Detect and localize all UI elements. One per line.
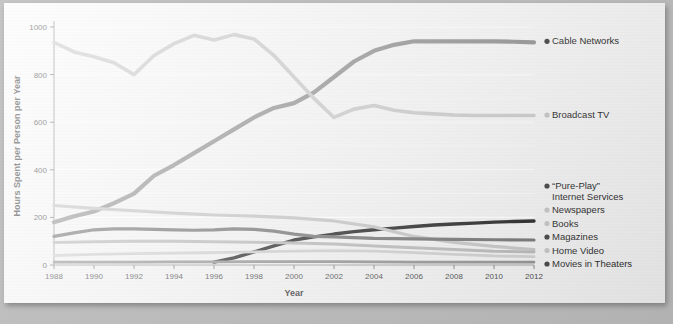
- y-axis: 02004006008001000: [29, 21, 54, 270]
- legend-home-video: Home Video: [552, 245, 604, 256]
- x-tick-label: 1990: [85, 272, 103, 281]
- legend-books: Books: [552, 218, 579, 229]
- x-tick-label: 1994: [165, 272, 183, 281]
- series-line: [54, 251, 534, 257]
- x-tick-label: 2006: [405, 272, 423, 281]
- plot-series: [54, 35, 534, 263]
- x-tick-label: 2004: [365, 272, 383, 281]
- line-chart: 02004006008001000 1988199019921994199619…: [4, 3, 665, 303]
- legend-newspapers: Newspapers: [552, 204, 605, 215]
- legend-pure-play-line2: Internet Services: [552, 191, 624, 202]
- x-tick-label: 1988: [45, 272, 63, 281]
- x-axis-title: Year: [284, 288, 304, 298]
- y-tick-label: 1000: [29, 23, 47, 32]
- legend-broadcast-tv: Broadcast TV: [552, 109, 610, 120]
- legend-marker-dot: [544, 261, 549, 266]
- x-tick-label: 1998: [245, 272, 263, 281]
- x-tick-label: 2010: [485, 272, 503, 281]
- legend-pure-play: “Pure-Play”: [552, 180, 600, 191]
- legend-cable-networks: Cable Networks: [552, 35, 619, 46]
- legend-marker-dot: [544, 207, 549, 212]
- legend-magazines: Magazines: [552, 231, 598, 242]
- x-tick-label: 2000: [285, 272, 303, 281]
- x-tick-label: 2008: [445, 272, 463, 281]
- x-tick-label: 2012: [525, 272, 543, 281]
- legend-marker-dot: [544, 39, 549, 44]
- x-tick-label: 1992: [125, 272, 143, 281]
- y-tick-label: 400: [34, 166, 48, 175]
- screenshot-frame: 02004006008001000 1988199019921994199619…: [0, 0, 673, 324]
- x-axis: 1988199019921994199619982000200220042006…: [45, 265, 543, 281]
- legend-marker-dot: [544, 248, 549, 253]
- y-tick-label: 0: [43, 261, 48, 270]
- y-axis-title: Hours Spent per Person per Year: [12, 75, 22, 216]
- y-tick-label: 600: [34, 118, 48, 127]
- x-tick-label: 1996: [205, 272, 223, 281]
- y-tick-label: 800: [34, 71, 48, 80]
- chart-legend: Cable NetworksBroadcast TV“Pure-Play”Int…: [544, 35, 632, 269]
- legend-marker-dot: [544, 221, 549, 226]
- chart-panel: 02004006008001000 1988199019921994199619…: [4, 3, 665, 303]
- legend-marker-dot: [544, 234, 549, 239]
- legend-marker-dot: [544, 112, 549, 117]
- x-tick-label: 2002: [325, 272, 343, 281]
- legend-movies-in-theaters: Movies in Theaters: [552, 258, 632, 269]
- y-tick-label: 200: [34, 213, 48, 222]
- legend-marker-dot: [544, 183, 549, 188]
